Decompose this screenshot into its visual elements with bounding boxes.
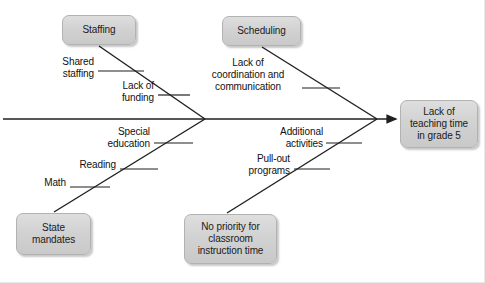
- cause-label-math: Math: [22, 177, 66, 189]
- cause-label-additional-activities: Additional activities: [253, 126, 323, 150]
- category-label-scheduling: Scheduling: [227, 25, 296, 37]
- cause-label-coordination: Lack of coordination and communication: [196, 57, 300, 93]
- cause-label-pullout-programs: Pull-out programs: [228, 153, 290, 177]
- category-box-state-mandates[interactable]: State mandates: [16, 213, 91, 255]
- category-label-state-mandates: State mandates: [21, 222, 86, 246]
- effect-label: Lack of teaching time in grade 5: [405, 106, 473, 142]
- fishbone-diagram: Staffing Scheduling State mandates No pr…: [0, 0, 485, 283]
- cause-label-shared-staffing: Shared staffing: [30, 56, 94, 80]
- cause-label-special-education: Special education: [76, 126, 150, 150]
- category-label-no-priority: No priority for classroom instruction ti…: [189, 221, 272, 257]
- cause-label-lack-funding: Lack of funding: [90, 80, 154, 104]
- effect-box[interactable]: Lack of teaching time in grade 5: [400, 100, 478, 148]
- category-box-no-priority[interactable]: No priority for classroom instruction ti…: [184, 214, 277, 264]
- category-box-staffing[interactable]: Staffing: [62, 15, 136, 45]
- category-label-staffing: Staffing: [67, 24, 131, 36]
- category-box-scheduling[interactable]: Scheduling: [222, 16, 301, 46]
- cause-label-reading: Reading: [54, 159, 116, 171]
